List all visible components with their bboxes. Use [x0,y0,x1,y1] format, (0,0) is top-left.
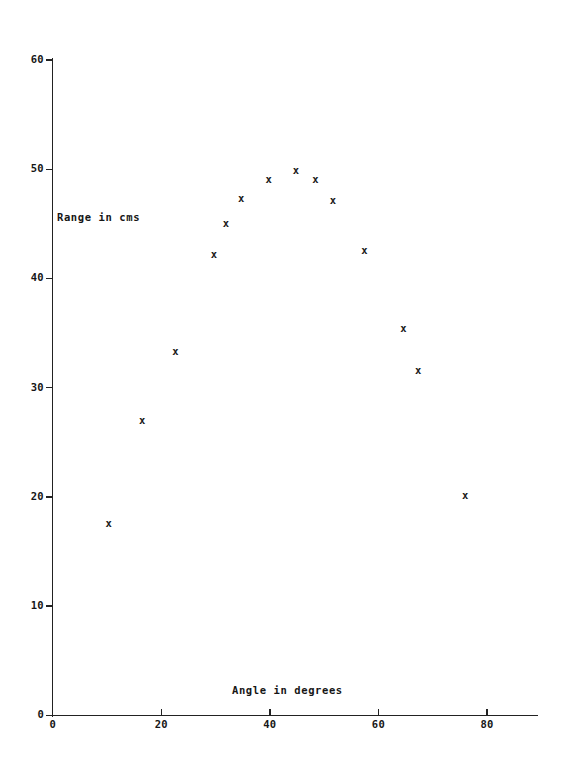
data-point-marker: x [238,192,244,203]
scatter-plot-figure: 0102030405060 020406080 xxxxxxxxxxxxxx R… [0,0,571,777]
data-point-marker: x [330,195,336,206]
x-tick-label: 80 [480,719,493,730]
x-tick-label: 40 [263,719,276,730]
y-tick-label: 0 [37,709,44,720]
data-point-marker: x [361,245,367,256]
y-tick-label-holder: 60 [0,54,44,66]
y-tick-mark [46,496,53,497]
x-tick-mark [269,709,270,716]
x-tick-mark [378,709,379,716]
data-point-marker: x [105,518,111,529]
y-tick-mark [46,169,53,170]
y-tick-label-holder: 40 [0,272,44,284]
y-tick-label: 40 [31,272,44,283]
y-tick-mark [46,715,53,716]
x-axis-line [52,715,538,716]
y-tick-mark [46,278,53,279]
data-point-marker: x [211,249,217,260]
y-tick-mark [46,605,53,606]
y-tick-mark [46,59,53,60]
y-tick-mark [46,387,53,388]
y-tick-label: 30 [31,382,44,393]
data-point-marker: x [266,174,272,185]
data-point-marker: x [415,365,421,376]
data-point-marker: x [462,489,468,500]
data-point-marker: x [139,415,145,426]
y-tick-label-holder: 20 [0,491,44,503]
y-tick-label: 50 [31,163,44,174]
y-tick-label: 60 [31,54,44,65]
data-point-marker: x [400,322,406,333]
x-tick-label: 60 [372,719,385,730]
x-tick-mark [486,709,487,716]
x-tick-mark [161,709,162,716]
y-tick-label-holder: 30 [0,382,44,394]
y-axis-title: Range in cms [57,211,140,223]
data-point-marker: x [312,174,318,185]
x-axis-title: Angle in degrees [232,684,343,696]
x-tick-label: 0 [49,719,56,730]
y-tick-label: 10 [31,600,44,611]
data-point-marker: x [293,165,299,176]
data-point-marker: x [172,345,178,356]
data-point-marker: x [223,217,229,228]
y-tick-label-holder: 50 [0,163,44,175]
y-tick-label-holder: 0 [0,709,44,721]
y-tick-label: 20 [31,491,44,502]
x-tick-label: 20 [155,719,168,730]
y-tick-label-holder: 10 [0,600,44,612]
